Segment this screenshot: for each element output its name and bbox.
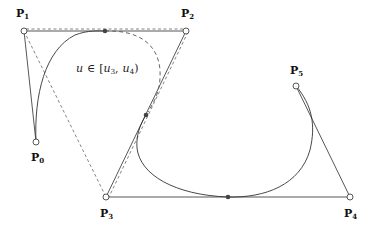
label-p0: P0 <box>31 151 44 165</box>
label-p1: P1 <box>16 7 29 21</box>
bspline-diagram: P0 P1 P2 P3 P4 P5 u ∈ [u3, u4) <box>0 0 373 228</box>
control-point-p0 <box>33 139 39 145</box>
control-point-p3 <box>103 194 109 200</box>
control-point-p1 <box>21 28 27 34</box>
control-polygon <box>24 31 350 197</box>
interval-annotation: u ∈ [u3, u4) <box>76 58 138 76</box>
control-point-p5 <box>293 83 299 89</box>
label-p2: P2 <box>181 7 194 21</box>
dashed-p2-p3 <box>109 32 188 197</box>
control-point-p4 <box>347 194 353 200</box>
knot-dot <box>226 195 231 200</box>
label-p4: P4 <box>344 207 357 221</box>
label-p3: P3 <box>100 207 113 221</box>
knot-dot <box>144 113 149 118</box>
knot-dot <box>103 29 108 34</box>
control-point-p2 <box>183 28 189 34</box>
label-p5: P5 <box>290 64 303 78</box>
